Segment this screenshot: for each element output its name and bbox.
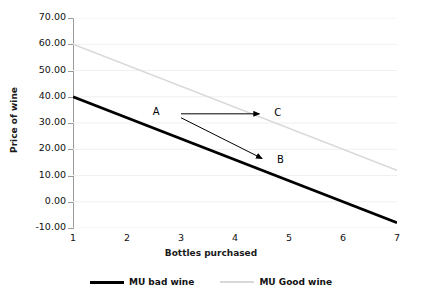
y-tick-mark bbox=[68, 176, 73, 177]
y-tick-label: 50.00 bbox=[20, 64, 66, 75]
series-line bbox=[73, 97, 397, 223]
x-tick-label: 1 bbox=[58, 232, 88, 243]
chart-svg bbox=[73, 18, 397, 228]
chart-legend: MU bad wine MU Good wine bbox=[0, 277, 422, 287]
y-tick-mark bbox=[68, 228, 73, 229]
x-tick-label: 4 bbox=[220, 232, 250, 243]
y-tick-label: 0.00 bbox=[20, 195, 66, 206]
y-tick-label: 20.00 bbox=[20, 142, 66, 153]
point-label-c: C bbox=[274, 107, 281, 118]
x-tick-label: 5 bbox=[274, 232, 304, 243]
y-tick-label: 60.00 bbox=[20, 37, 66, 48]
chart-container: Price of wine -10.000.0010.0020.0030.004… bbox=[0, 0, 422, 299]
x-tick-label: 6 bbox=[328, 232, 358, 243]
y-tick-mark bbox=[68, 123, 73, 124]
y-tick-label: 10.00 bbox=[20, 169, 66, 180]
y-tick-label: 70.00 bbox=[20, 11, 66, 22]
y-tick-label: -10.00 bbox=[20, 221, 66, 232]
y-tick-mark bbox=[68, 18, 73, 19]
x-tick-label: 7 bbox=[382, 232, 412, 243]
point-label-a: A bbox=[153, 106, 160, 117]
legend-label-bad-wine: MU bad wine bbox=[129, 277, 194, 287]
x-axis-title: Bottles purchased bbox=[0, 248, 422, 258]
y-tick-mark bbox=[68, 202, 73, 203]
legend-item-mu-bad-wine: MU bad wine bbox=[90, 277, 194, 287]
y-tick-mark bbox=[68, 71, 73, 72]
legend-label-good-wine: MU Good wine bbox=[259, 277, 332, 287]
x-tick-label: 2 bbox=[112, 232, 142, 243]
y-tick-mark bbox=[68, 97, 73, 98]
y-tick-label: 30.00 bbox=[20, 116, 66, 127]
point-label-b: B bbox=[277, 154, 284, 165]
legend-item-mu-good-wine: MU Good wine bbox=[220, 277, 332, 287]
series-line bbox=[73, 44, 397, 170]
y-tick-label: 40.00 bbox=[20, 90, 66, 101]
legend-swatch-good-wine bbox=[220, 281, 254, 283]
plot-area: ACB bbox=[73, 18, 397, 228]
y-tick-mark bbox=[68, 44, 73, 45]
annotation-arrow-A-to-B bbox=[181, 118, 262, 159]
x-tick-label: 3 bbox=[166, 232, 196, 243]
y-tick-mark bbox=[68, 149, 73, 150]
legend-swatch-bad-wine bbox=[90, 281, 124, 284]
